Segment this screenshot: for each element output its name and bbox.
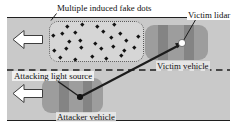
attacking-light-source-dot: [77, 94, 82, 99]
victim-lidar-label: Victim lidar: [187, 10, 231, 20]
victim-vehicle-window: [184, 25, 194, 61]
attacking-light-source-label: Attacking light source: [12, 71, 94, 81]
lidar-spoofing-attack-figure: Multiple induced fake dots Victim lidar …: [0, 0, 239, 131]
victim-vehicle-window: [158, 25, 168, 61]
attacker-vehicle-window: [59, 78, 69, 113]
victim-lidar-dot: [179, 40, 185, 46]
victim-vehicle-label: Victim vehicle: [156, 61, 210, 71]
victim-vehicle: [145, 25, 208, 61]
attacker-vehicle-window: [83, 78, 92, 113]
fake-dots-label: Multiple induced fake dots: [57, 3, 152, 13]
attacker-vehicle: [42, 78, 103, 113]
attacker-vehicle-label: Attacker vehicle: [56, 112, 116, 122]
